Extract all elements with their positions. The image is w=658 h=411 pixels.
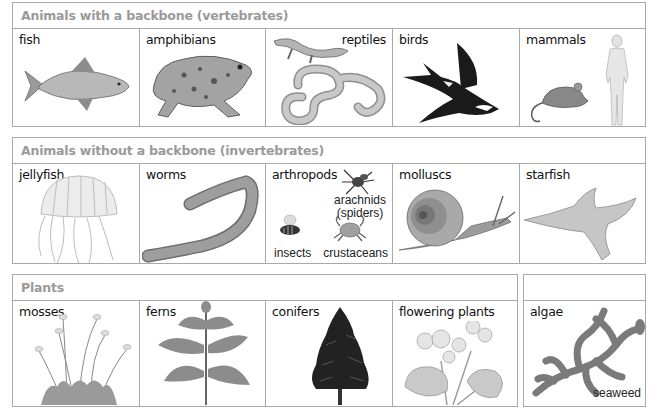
frog-icon bbox=[144, 45, 264, 125]
section-title: Animals without a backbone (invertebrate… bbox=[13, 138, 645, 164]
cell-starfish: starfish bbox=[520, 164, 645, 263]
algae-section: algae seaweed bbox=[523, 274, 646, 407]
cell-mammals: mammals bbox=[520, 29, 645, 126]
mouse-human-icon bbox=[522, 31, 642, 126]
moss-icon bbox=[17, 305, 137, 405]
cell-jellyfish: jellyfish bbox=[13, 164, 140, 263]
crab-icon bbox=[332, 214, 368, 242]
section-title: Animals with a backbone (vertebrates) bbox=[13, 3, 645, 29]
vertebrates-section: Animals with a backbone (vertebrates) fi… bbox=[12, 2, 646, 127]
cell-label: starfish bbox=[526, 167, 570, 182]
cell-worms: worms bbox=[140, 164, 266, 263]
fish-icon bbox=[17, 51, 137, 121]
conifer-icon bbox=[306, 305, 376, 405]
swallow-icon bbox=[397, 37, 517, 126]
plants-section: Plants mosses ferns conifers bbox=[12, 274, 518, 407]
fern-icon bbox=[144, 301, 264, 405]
crustaceans-label: crustaceans bbox=[323, 247, 388, 260]
spider-icon bbox=[340, 166, 376, 196]
insect-icon bbox=[274, 214, 304, 240]
invertebrates-section: Animals without a backbone (invertebrate… bbox=[12, 137, 646, 264]
cell-algae: algae seaweed bbox=[524, 301, 645, 406]
cell-arthropods: arthropods arachnids (spiders) insects c… bbox=[266, 164, 393, 263]
seaweed-label: seaweed bbox=[593, 387, 641, 400]
cell-label: arthropods bbox=[272, 167, 337, 182]
cell-label: flowering plants bbox=[399, 304, 494, 319]
starfish-icon bbox=[522, 184, 642, 263]
cell-label: molluscs bbox=[399, 167, 451, 182]
cell-ferns: ferns bbox=[140, 301, 266, 406]
lizard-snake-icon bbox=[268, 33, 388, 125]
snail-icon bbox=[395, 182, 519, 262]
cell-molluscs: molluscs bbox=[393, 164, 520, 263]
cell-mosses: mosses bbox=[13, 301, 140, 406]
cell-conifers: conifers bbox=[266, 301, 393, 406]
cell-amphibians: amphibians bbox=[140, 29, 266, 126]
cell-birds: birds bbox=[393, 29, 520, 126]
cell-flowering-plants: flowering plants bbox=[393, 301, 519, 406]
section-title: Plants bbox=[13, 275, 517, 301]
earthworm-icon bbox=[142, 164, 262, 263]
flowering-plant-icon bbox=[397, 321, 517, 405]
section-title bbox=[524, 275, 645, 301]
jellyfish-icon bbox=[17, 166, 137, 263]
insects-label: insects bbox=[274, 247, 311, 260]
cell-label: fish bbox=[19, 32, 40, 47]
cell-fish: fish bbox=[13, 29, 140, 126]
cell-reptiles: reptiles bbox=[266, 29, 393, 126]
